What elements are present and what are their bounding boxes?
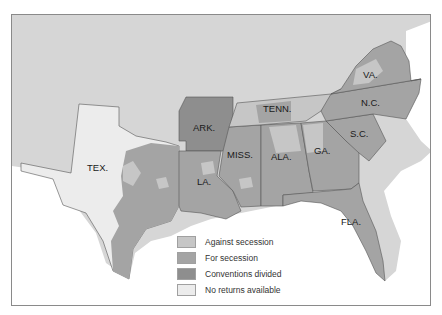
legend-label: No returns available: [205, 285, 281, 295]
legend-label: For secession: [205, 253, 258, 263]
label-mississippi: MISS.: [227, 149, 253, 160]
legend-label: Against secession: [205, 237, 274, 247]
label-north-carolina: N.C.: [361, 97, 380, 108]
legend-item-for: For secession: [177, 250, 282, 266]
label-georgia: GA.: [314, 145, 330, 156]
legend-swatch-for: [177, 252, 196, 264]
louisiana-against-patch: [201, 161, 215, 175]
legend-swatch-no-returns: [177, 284, 196, 296]
legend-label: Conventions divided: [205, 269, 282, 279]
map-legend: Against secession For secession Conventi…: [177, 234, 282, 298]
mississippi-against-patch: [239, 177, 253, 189]
legend-item-divided: Conventions divided: [177, 266, 282, 282]
label-south-carolina: S.C.: [350, 128, 368, 139]
legend-item-no-returns: No returns available: [177, 282, 282, 298]
legend-item-against: Against secession: [177, 234, 282, 250]
label-arkansas: ARK.: [193, 122, 215, 133]
label-louisiana: LA.: [197, 176, 211, 187]
label-alabama: ALA.: [271, 151, 292, 162]
map-frame: VA. N.C. TENN. ARK. S.C. GA. ALA. MISS. …: [11, 14, 431, 306]
legend-swatch-divided: [177, 268, 196, 280]
label-virginia: VA.: [363, 69, 378, 80]
label-texas: TEX.: [87, 162, 108, 173]
legend-swatch-against: [177, 236, 196, 248]
label-florida: FLA.: [341, 216, 361, 227]
label-tennessee: TENN.: [263, 103, 292, 114]
